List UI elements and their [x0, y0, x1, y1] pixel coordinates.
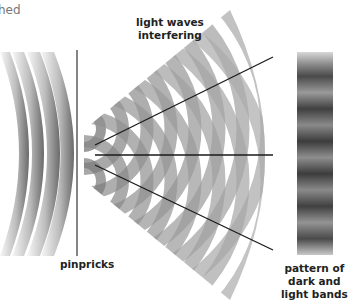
- label-line: dark and: [281, 275, 348, 288]
- label-light-waves: light waves interfering: [136, 16, 204, 42]
- label-fringe-pattern: pattern of dark and light bands: [281, 262, 348, 301]
- label-line: light waves: [136, 16, 204, 29]
- label-line: pattern of: [281, 262, 348, 275]
- caption-fragment: hed: [0, 3, 21, 17]
- label-line: light bands: [281, 288, 348, 301]
- label-line: interfering: [136, 29, 204, 42]
- fringe-pattern-screen: [297, 52, 333, 255]
- incoming-wavefronts: [0, 52, 74, 256]
- label-pinpricks: pinpricks: [60, 258, 114, 271]
